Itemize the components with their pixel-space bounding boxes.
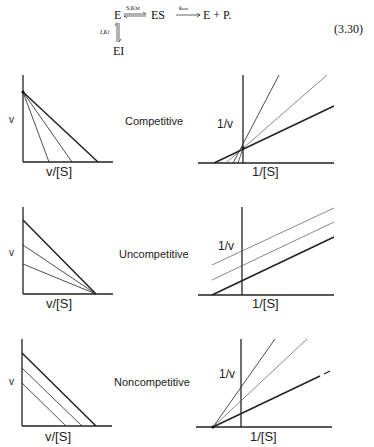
noncompetitive-left-xlabel: v/[S] xyxy=(45,429,71,444)
equilibrium-arrows xyxy=(115,12,200,42)
competitive-title: Competitive xyxy=(125,115,183,127)
chart-competitive-eadie xyxy=(23,75,113,162)
chart-uncompetitive-eadie xyxy=(23,207,113,294)
noncompetitive-left-ylabel: v xyxy=(9,376,14,387)
chart-noncompetitive-eadie xyxy=(22,339,112,426)
uncompetitive-right-ylabel: 1/v xyxy=(218,239,234,253)
uncompetitive-left-ylabel: v xyxy=(9,247,14,258)
noncompetitive-right-ylabel: 1/v xyxy=(219,367,235,381)
uncompetitive-right-xlabel: 1/[S] xyxy=(252,296,279,311)
chart-noncompetitive-lb xyxy=(196,339,332,427)
competitive-left-ylabel: v xyxy=(9,114,14,125)
uncompetitive-title: Uncompetitive xyxy=(119,248,189,260)
noncompetitive-title: Noncompetitive xyxy=(114,376,190,388)
uncompetitive-left-xlabel: v/[S] xyxy=(46,296,72,311)
competitive-left-xlabel: v/[S] xyxy=(46,164,72,179)
noncompetitive-right-xlabel: 1/[S] xyxy=(250,429,277,444)
competitive-right-xlabel: 1/[S] xyxy=(252,164,279,179)
competitive-right-ylabel: 1/v xyxy=(217,117,233,131)
